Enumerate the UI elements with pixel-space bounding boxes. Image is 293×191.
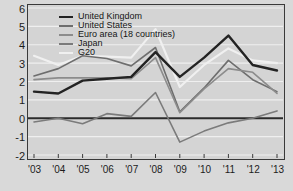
x-tick-label: '11 [223, 164, 235, 175]
y-tick-label: 1 [3, 95, 25, 106]
legend-item: Euro area (18 countries) [59, 30, 175, 39]
x-axis-tick-labels: '03'04'05'06'07'08'09'10'11'12'13 [0, 164, 293, 180]
legend-label: G20 [78, 48, 95, 57]
x-tick-label: '13 [271, 164, 284, 175]
y-axis-tick-labels: 6543210-1-2 [0, 0, 25, 191]
legend-swatch-icon [59, 16, 73, 18]
x-tick-label: '05 [77, 164, 90, 175]
legend-swatch-icon [59, 43, 73, 45]
x-tick-label: '04 [52, 164, 65, 175]
x-tick-label: '03 [28, 164, 41, 175]
legend-swatch-icon [59, 34, 73, 36]
y-tick-label: 5 [3, 21, 25, 32]
x-tick-label: '07 [125, 164, 138, 175]
x-tick-label: '09 [174, 164, 187, 175]
x-tick-label: '10 [198, 164, 211, 175]
plot-area: United KingdomUnited StatesEuro area (18… [27, 4, 285, 160]
legend-swatch-icon [59, 25, 73, 27]
legend-item: G20 [59, 48, 175, 57]
chart-legend: United KingdomUnited StatesEuro area (18… [59, 12, 175, 57]
y-tick-label: 6 [3, 3, 25, 14]
x-tick-label: '12 [247, 164, 260, 175]
series-line [34, 58, 277, 113]
chart-figure: 6543210-1-2 United KingdomUnited StatesE… [0, 0, 293, 191]
y-tick-label: 3 [3, 58, 25, 69]
y-tick-label: 2 [3, 77, 25, 88]
y-tick-label: -2 [3, 150, 25, 161]
legend-item: Japan [59, 39, 175, 48]
y-tick-label: -1 [3, 132, 25, 143]
legend-swatch-icon [59, 52, 73, 54]
y-tick-label: 0 [3, 113, 25, 124]
y-tick-label: 4 [3, 40, 25, 51]
x-tick-label: '06 [101, 164, 114, 175]
x-tick-label: '08 [149, 164, 162, 175]
